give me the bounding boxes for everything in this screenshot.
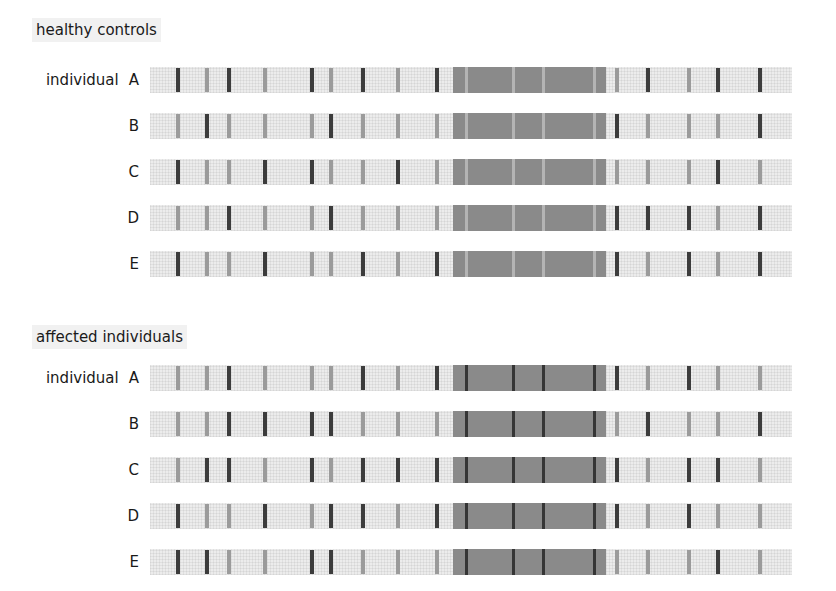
marker-band-light xyxy=(205,206,209,230)
marker-band-light xyxy=(176,114,180,138)
marker-band-light xyxy=(716,504,720,528)
marker-band-light xyxy=(646,252,650,276)
marker-band-dark xyxy=(687,206,691,230)
gene-region-block xyxy=(453,549,606,575)
marker-band-light xyxy=(205,160,209,184)
marker-band-light xyxy=(396,252,400,276)
block-marker-line xyxy=(465,67,468,93)
block-marker-line xyxy=(465,549,468,575)
marker-band-light xyxy=(435,206,439,230)
row-label: D xyxy=(0,205,139,231)
row-label: B xyxy=(0,113,139,139)
marker-band-dark xyxy=(176,504,180,528)
marker-band-light xyxy=(396,366,400,390)
marker-band-dark xyxy=(329,114,333,138)
marker-strip xyxy=(150,205,792,231)
marker-band-dark xyxy=(176,550,180,574)
marker-band-light xyxy=(396,68,400,92)
marker-band-light xyxy=(687,160,691,184)
marker-band-light xyxy=(758,504,762,528)
marker-band-dark xyxy=(227,206,231,230)
marker-band-dark xyxy=(687,504,691,528)
marker-band-dark xyxy=(396,458,400,482)
block-marker-line xyxy=(542,365,545,391)
marker-band-light xyxy=(310,252,314,276)
marker-band-dark xyxy=(361,458,365,482)
marker-band-dark xyxy=(435,68,439,92)
marker-band-light xyxy=(227,114,231,138)
block-marker-line xyxy=(593,113,596,139)
marker-band-dark xyxy=(205,550,209,574)
block-marker-line xyxy=(542,159,545,185)
marker-band-dark xyxy=(310,412,314,436)
marker-band-dark xyxy=(263,160,267,184)
marker-band-dark xyxy=(435,458,439,482)
marker-band-light xyxy=(758,160,762,184)
marker-band-dark xyxy=(361,252,365,276)
block-marker-line xyxy=(593,457,596,483)
marker-strip xyxy=(150,411,792,437)
row-label: C xyxy=(0,457,139,483)
marker-band-dark xyxy=(687,458,691,482)
block-marker-line xyxy=(593,159,596,185)
marker-band-dark xyxy=(263,412,267,436)
marker-band-light xyxy=(716,114,720,138)
gene-region-block xyxy=(453,159,606,185)
marker-band-light xyxy=(263,366,267,390)
block-marker-line xyxy=(542,67,545,93)
marker-band-light xyxy=(361,160,365,184)
row-label-prefix: individual xyxy=(46,71,119,89)
row-label-letter: D xyxy=(127,507,139,525)
block-marker-line xyxy=(593,411,596,437)
block-marker-line xyxy=(512,365,515,391)
gene-region-block xyxy=(453,411,606,437)
marker-band-light xyxy=(646,458,650,482)
marker-band-dark xyxy=(716,68,720,92)
marker-strip xyxy=(150,159,792,185)
marker-band-light xyxy=(263,550,267,574)
marker-band-dark xyxy=(758,206,762,230)
marker-band-dark xyxy=(263,252,267,276)
marker-band-light xyxy=(263,68,267,92)
block-marker-line xyxy=(512,549,515,575)
marker-band-light xyxy=(205,252,209,276)
marker-band-dark xyxy=(396,160,400,184)
marker-band-light xyxy=(329,252,333,276)
marker-band-light xyxy=(310,206,314,230)
row-label-letter: E xyxy=(130,255,139,273)
marker-band-light xyxy=(396,504,400,528)
marker-band-dark xyxy=(329,550,333,574)
marker-band-dark xyxy=(646,68,650,92)
gene-region-block xyxy=(453,251,606,277)
row-label-prefix: individual xyxy=(46,369,119,387)
marker-band-light xyxy=(646,114,650,138)
marker-band-light xyxy=(615,160,619,184)
block-marker-line xyxy=(512,159,515,185)
marker-band-light xyxy=(263,114,267,138)
marker-band-dark xyxy=(615,114,619,138)
row-label-letter: A xyxy=(129,71,139,89)
marker-band-light xyxy=(176,206,180,230)
marker-band-light xyxy=(310,366,314,390)
block-marker-line xyxy=(542,205,545,231)
block-marker-line xyxy=(512,67,515,93)
marker-band-dark xyxy=(615,366,619,390)
marker-band-dark xyxy=(435,504,439,528)
marker-band-dark xyxy=(310,68,314,92)
marker-band-dark xyxy=(263,504,267,528)
marker-band-dark xyxy=(615,458,619,482)
section-title-affected: affected individuals xyxy=(32,325,187,349)
marker-band-light xyxy=(205,504,209,528)
marker-band-dark xyxy=(329,504,333,528)
row-label-letter: C xyxy=(129,461,139,479)
marker-band-light xyxy=(329,366,333,390)
marker-band-light xyxy=(646,366,650,390)
marker-band-light xyxy=(687,550,691,574)
block-marker-line xyxy=(465,251,468,277)
marker-band-light xyxy=(716,412,720,436)
marker-band-light xyxy=(646,550,650,574)
marker-band-light xyxy=(396,114,400,138)
marker-band-light xyxy=(329,160,333,184)
marker-band-light xyxy=(227,252,231,276)
marker-band-light xyxy=(435,160,439,184)
